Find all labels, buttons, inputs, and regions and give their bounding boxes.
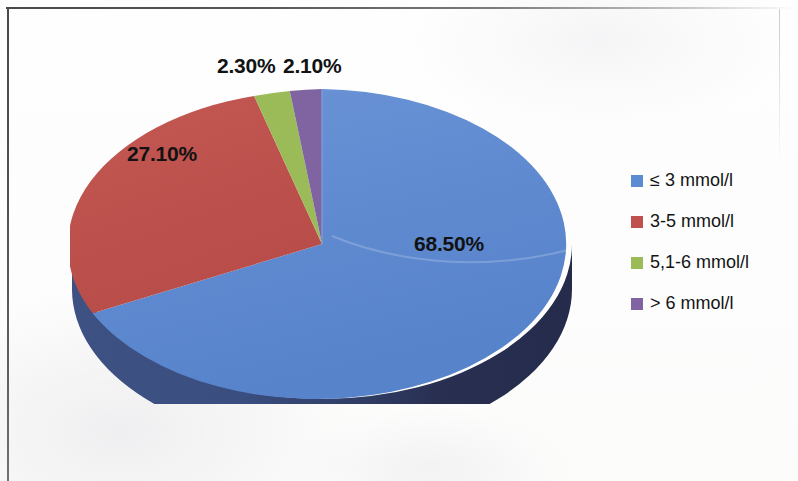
legend-swatch-icon: [631, 175, 643, 187]
scan-frame-left-border: [7, 7, 9, 481]
scan-frame-right-border: [779, 9, 780, 169]
scan-frame-top-border: [6, 7, 792, 9]
legend-swatch-icon: [631, 257, 643, 269]
legend-item-2[interactable]: 5,1-6 mmol/l: [631, 242, 781, 283]
legend-item-1[interactable]: 3-5 mmol/l: [631, 201, 781, 242]
legend-swatch-icon: [631, 298, 643, 310]
pie-chart: [70, 84, 574, 404]
legend-label: 3-5 mmol/l: [650, 211, 734, 232]
data-label-red: 27.10%: [127, 142, 197, 166]
legend-label: ≤ 3 mmol/l: [650, 170, 733, 191]
data-label-green: 2.30%: [217, 54, 276, 78]
legend-label: > 6 mmol/l: [650, 293, 734, 314]
chart-legend: ≤ 3 mmol/l 3-5 mmol/l 5,1-6 mmol/l > 6 m…: [631, 160, 781, 324]
legend-label: 5,1-6 mmol/l: [650, 252, 749, 273]
legend-swatch-icon: [631, 216, 643, 228]
data-label-blue: 68.50%: [414, 232, 484, 256]
data-label-purple: 2.10%: [283, 54, 342, 78]
pie-chart-svg: [70, 84, 574, 404]
chart-page: 2.30% 2.10% 27.10% 68.50% ≤ 3 mmol/l 3-5…: [0, 0, 798, 481]
legend-item-3[interactable]: > 6 mmol/l: [631, 283, 781, 324]
legend-item-0[interactable]: ≤ 3 mmol/l: [631, 160, 781, 201]
